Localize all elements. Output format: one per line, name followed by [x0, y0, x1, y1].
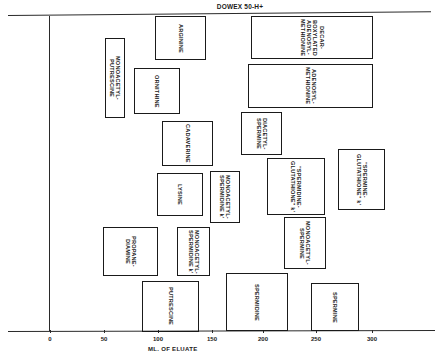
- x-tick-mark: [104, 330, 105, 333]
- compound-label: SPERMIDINE: [254, 284, 260, 321]
- x-tick-mark: [212, 330, 213, 333]
- elution-box: "SPERMIDINE- GLUTATHIONE" k': [267, 158, 325, 215]
- elution-box: "SPERMINE- GLUTATHIONE" k': [338, 149, 385, 210]
- compound-label: SPERMINE: [332, 292, 338, 323]
- elution-box: MONOACETYL- PUTRESCINE: [105, 38, 125, 118]
- compound-label: ADENOSYL- METHIONINE: [304, 67, 317, 104]
- elution-box: DECAR- BOXYLATED ADENOSYL- METHIONINE: [251, 16, 373, 59]
- elution-box: DIACETYL- SPERMINE: [241, 112, 282, 155]
- compound-label: MONOACETYL- SPERMIDINE k': [187, 230, 200, 274]
- elution-box: ORNITHINE: [134, 68, 180, 114]
- compound-label: "SPERMINE- GLUTATHIONE" k': [355, 154, 368, 205]
- compound-label: MONOACETYL- SPERMIDINE k': [219, 175, 232, 219]
- compound-label: CADAVERINE: [184, 124, 190, 163]
- elution-box: PROPANE- DIAMINE: [103, 227, 158, 276]
- elution-box: ARGININE: [155, 16, 206, 60]
- compound-label: ARGININE: [177, 24, 183, 53]
- elution-box: CADAVERINE: [162, 121, 213, 166]
- resin-title: DOWEX 50-H+: [190, 3, 290, 10]
- compound-label: DIACETYL- SPERMINE: [255, 118, 268, 150]
- x-tick-label: 100: [153, 336, 163, 342]
- x-tick-label: 200: [258, 336, 268, 342]
- compound-label: PROPANE- DIAMINE: [124, 236, 137, 267]
- elution-box: SPERMIDINE: [226, 273, 288, 331]
- compound-label: LYSINE: [177, 184, 183, 205]
- compound-label: "SPERMIDINE- GLUTATHIONE" k': [290, 161, 303, 212]
- elution-box: MONOACETYL- SPERMIDINE k': [210, 171, 240, 223]
- compound-label: ORNITHINE: [154, 75, 160, 108]
- x-tick-mark: [372, 330, 373, 333]
- x-tick-label: 300: [367, 336, 377, 342]
- x-axis: [8, 330, 435, 332]
- elution-box: SPERMINE: [311, 283, 359, 331]
- x-tick-label: 50: [101, 336, 108, 342]
- elution-box: PUTRESCINE: [142, 281, 199, 332]
- elution-box: ADENOSYL- METHIONINE: [248, 64, 373, 108]
- x-tick-label: 150: [207, 336, 217, 342]
- x-tick-label: 0: [48, 336, 51, 342]
- elution-box: MONOACETYL- SPERMINE: [284, 217, 326, 269]
- compound-label: DECAR- BOXYLATED ADENOSYL- METHIONINE: [299, 19, 325, 56]
- x-tick-label: 250: [311, 336, 321, 342]
- compound-label: MONOACETYL- SPERMINE: [299, 221, 312, 265]
- compound-label: MONOACETYL- PUTRESCINE: [109, 56, 122, 100]
- compound-label: PUTRESCINE: [167, 287, 173, 325]
- elution-box: MONOACETYL- SPERMIDINE k': [177, 227, 210, 276]
- x-axis-label: ML. OF ELUATE: [148, 346, 197, 352]
- y-axis: [49, 16, 50, 331]
- elution-diagram: DOWEX 50-H+ 050100150200250300 ARGININED…: [0, 0, 438, 356]
- elution-box: LYSINE: [157, 173, 203, 216]
- x-tick-mark: [50, 330, 51, 333]
